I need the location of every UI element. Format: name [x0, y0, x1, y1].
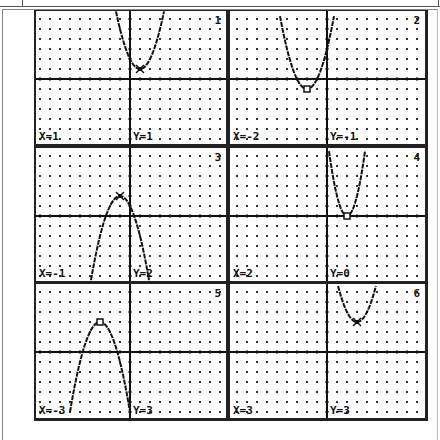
trace-x-value: X=3	[233, 404, 253, 417]
trace-x-value: X=-3	[39, 404, 66, 417]
calculator-graph-grid: 1X=1Y=1 2X=-2Y=-1 3X=-1Y=2 4X=2Y=0 5X=-3…	[34, 10, 428, 421]
parabola-curve	[116, 11, 164, 69]
trace-y-value: Y=2	[133, 267, 153, 280]
previous-row-edge	[0, 0, 440, 8]
trace-cursor-square-icon	[344, 213, 350, 219]
graph-number-label: 2	[413, 14, 420, 27]
trace-x-value: X=-1	[39, 267, 66, 280]
trace-y-value: Y=3	[330, 404, 350, 417]
trace-y-value: Y=0	[330, 267, 350, 280]
trace-cursor-square-icon	[97, 319, 103, 325]
trace-y-value: Y=1	[133, 130, 153, 143]
graph-panel-5: 5X=-3Y=3	[36, 284, 226, 418]
graph-number-label: 1	[214, 14, 221, 27]
graph-panel-3: 3X=-1Y=2	[36, 148, 226, 281]
row-divider	[0, 6, 440, 7]
graph-number-label: 6	[413, 287, 420, 300]
trace-cursor-square-icon	[304, 86, 310, 92]
parabola-curve	[70, 322, 130, 412]
graph-panel-4: 4X=2Y=0	[230, 148, 425, 281]
graph-number-label: 5	[214, 287, 221, 300]
graph-number-label: 3	[214, 151, 221, 164]
cell-divider	[22, 0, 23, 7]
cell-divider	[438, 0, 439, 7]
graph-number-label: 4	[413, 151, 420, 164]
trace-x-value: X=2	[233, 267, 253, 280]
graph-panel-6: 6X=3Y=3	[230, 284, 425, 418]
trace-x-value: X=1	[39, 130, 59, 143]
trace-x-value: X=-2	[233, 130, 260, 143]
graph-panel-1: 1X=1Y=1	[36, 11, 226, 144]
graph-panel-2: 2X=-2Y=-1	[230, 11, 425, 144]
trace-y-value: Y=-1	[330, 130, 357, 143]
trace-y-value: Y=3	[133, 404, 153, 417]
